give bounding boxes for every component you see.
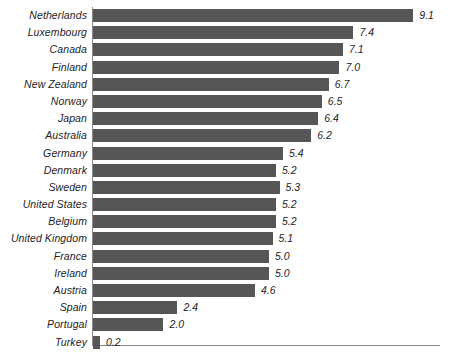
bar-track: 7.4 <box>93 26 457 39</box>
bar-track: 2.4 <box>93 301 457 314</box>
value-label: 0.2 <box>106 336 121 349</box>
bar <box>93 61 339 74</box>
bar-track: 5.3 <box>93 181 457 194</box>
category-label: Australia <box>0 129 87 142</box>
bar-row: Ireland5.0 <box>0 267 457 280</box>
value-label: 9.1 <box>419 9 434 22</box>
value-label: 5.2 <box>282 215 297 228</box>
value-label: 6.5 <box>328 95 343 108</box>
bar-track: 6.5 <box>93 95 457 108</box>
bar-row: Luxembourg7.4 <box>0 26 457 39</box>
bar-chart: Netherlands9.1Luxembourg7.4Canada7.1Finl… <box>0 0 457 363</box>
bar-track: 0.2 <box>93 336 457 349</box>
value-label: 5.1 <box>279 232 294 245</box>
bar <box>93 26 353 39</box>
bar-track: 5.4 <box>93 147 457 160</box>
bar-row: Sweden5.3 <box>0 181 457 194</box>
category-label: Denmark <box>0 164 87 177</box>
value-label: 6.4 <box>324 112 339 125</box>
bar-row: Austria4.6 <box>0 284 457 297</box>
category-label: Austria <box>0 284 87 297</box>
bar-row: Germany5.4 <box>0 147 457 160</box>
value-label: 5.0 <box>275 267 290 280</box>
value-label: 5.3 <box>286 181 301 194</box>
value-label: 5.2 <box>282 198 297 211</box>
bar <box>93 147 283 160</box>
bar-row: Australia6.2 <box>0 129 457 142</box>
bar <box>93 284 255 297</box>
value-label: 2.0 <box>169 318 184 331</box>
bar-row: New Zealand6.7 <box>0 78 457 91</box>
category-label: New Zealand <box>0 78 87 91</box>
value-label: 7.0 <box>345 61 360 74</box>
bar <box>93 232 273 245</box>
bar-row: Turkey0.2 <box>0 336 457 349</box>
bar-rows: Netherlands9.1Luxembourg7.4Canada7.1Finl… <box>0 9 457 353</box>
bar-row: Japan6.4 <box>0 112 457 125</box>
bar <box>93 267 269 280</box>
bar <box>93 95 322 108</box>
value-label: 6.7 <box>335 78 350 91</box>
bar <box>93 336 100 349</box>
bar-track: 2.0 <box>93 318 457 331</box>
bar-track: 4.6 <box>93 284 457 297</box>
bar <box>93 181 280 194</box>
value-label: 7.4 <box>359 26 374 39</box>
bar-row: Portugal2.0 <box>0 318 457 331</box>
value-label: 6.2 <box>317 129 332 142</box>
bar-track: 6.2 <box>93 129 457 142</box>
plot-area: Netherlands9.1Luxembourg7.4Canada7.1Finl… <box>0 0 457 363</box>
bar-track: 6.4 <box>93 112 457 125</box>
category-label: Belgium <box>0 215 87 228</box>
value-label: 7.1 <box>349 43 364 56</box>
bar-row: France5.0 <box>0 250 457 263</box>
category-label: France <box>0 250 87 263</box>
value-label: 2.4 <box>183 301 198 314</box>
category-label: United States <box>0 198 87 211</box>
bar <box>93 301 177 314</box>
category-label: Portugal <box>0 318 87 331</box>
bar-track: 5.0 <box>93 267 457 280</box>
category-label: Luxembourg <box>0 26 87 39</box>
category-label: Germany <box>0 147 87 160</box>
bar-track: 9.1 <box>93 9 457 22</box>
category-label: Spain <box>0 301 87 314</box>
bar-track: 5.2 <box>93 198 457 211</box>
bar <box>93 9 413 22</box>
bar <box>93 250 269 263</box>
bar-track: 7.1 <box>93 43 457 56</box>
bar-row: Spain2.4 <box>0 301 457 314</box>
bar-row: United Kingdom5.1 <box>0 232 457 245</box>
bar <box>93 112 318 125</box>
value-label: 5.4 <box>289 147 304 160</box>
category-label: Finland <box>0 61 87 74</box>
bar-track: 6.7 <box>93 78 457 91</box>
bar-row: Norway6.5 <box>0 95 457 108</box>
category-label: Canada <box>0 43 87 56</box>
bar-track: 7.0 <box>93 61 457 74</box>
value-label: 4.6 <box>261 284 276 297</box>
bar-row: Finland7.0 <box>0 61 457 74</box>
bar-track: 5.0 <box>93 250 457 263</box>
category-label: Ireland <box>0 267 87 280</box>
category-label: Sweden <box>0 181 87 194</box>
value-label: 5.0 <box>275 250 290 263</box>
bar <box>93 78 329 91</box>
bar-row: Netherlands9.1 <box>0 9 457 22</box>
bar <box>93 318 163 331</box>
bar <box>93 215 276 228</box>
category-label: Netherlands <box>0 9 87 22</box>
category-label: Japan <box>0 112 87 125</box>
bar <box>93 129 311 142</box>
category-label: United Kingdom <box>0 232 87 245</box>
bar <box>93 43 343 56</box>
value-label: 5.2 <box>282 164 297 177</box>
category-label: Turkey <box>0 336 87 349</box>
category-label: Norway <box>0 95 87 108</box>
bar-track: 5.2 <box>93 215 457 228</box>
bar-track: 5.1 <box>93 232 457 245</box>
bar <box>93 198 276 211</box>
bar-row: United States5.2 <box>0 198 457 211</box>
bar <box>93 164 276 177</box>
bar-row: Belgium5.2 <box>0 215 457 228</box>
